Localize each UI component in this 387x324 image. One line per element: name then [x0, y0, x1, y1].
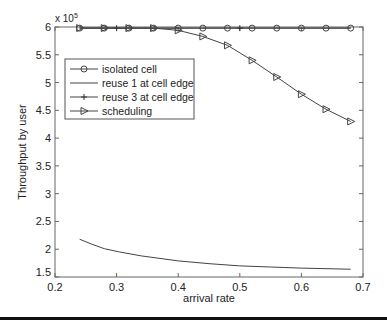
triangle-marker — [348, 118, 355, 125]
series-line — [80, 239, 351, 269]
bottom-rule — [0, 317, 387, 320]
y-tick-label: 2.5 — [36, 215, 51, 227]
y-tick-label: 2 — [45, 243, 51, 255]
x-axis-label: arrival rate — [183, 292, 235, 304]
y-tick-label: 5.5 — [36, 49, 51, 61]
x-tick-label: 0.6 — [294, 281, 309, 293]
x-tick-label: 0.2 — [47, 281, 62, 293]
legend: isolated cellreuse 1 at cell edgereuse 3… — [65, 59, 194, 119]
x-tick-label: 0.7 — [355, 281, 370, 293]
y-tick-label: 4.5 — [36, 104, 51, 116]
y-multiplier-base: x 10 — [55, 13, 74, 24]
legend-label: isolated cell — [102, 63, 157, 75]
y-multiplier-exp: 5 — [74, 12, 78, 19]
legend-label: scheduling — [102, 105, 152, 117]
y-multiplier: x 105 — [55, 12, 78, 24]
y-tick-label: 1.5 — [36, 266, 51, 278]
x-tick-label: 0.3 — [109, 281, 124, 293]
y-axis-label: Throughput by user — [16, 104, 28, 200]
legend-label: reuse 1 at cell edge — [102, 77, 194, 89]
legend-label: reuse 3 at cell edge — [102, 91, 194, 103]
series-reuse-1-at-cell-edge — [80, 239, 351, 269]
y-tick-label: 5 — [45, 77, 51, 89]
y-tick-label: 3 — [45, 188, 51, 200]
plus-marker — [237, 25, 243, 31]
y-tick-label: 6 — [45, 21, 51, 33]
y-tick-label: 4 — [45, 132, 51, 144]
throughput-chart: 0.20.30.40.50.60.71.522.533.544.555.56 i… — [0, 0, 387, 324]
y-tick-label: 3.5 — [36, 160, 51, 172]
